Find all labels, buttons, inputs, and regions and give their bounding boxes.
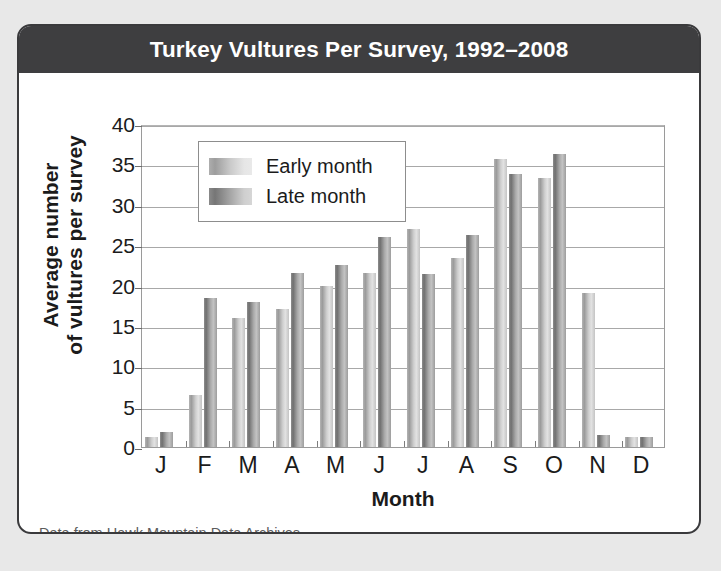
bar-late-month	[204, 298, 217, 447]
y-axis-tick-mark	[135, 409, 142, 410]
bar-early-month	[538, 178, 551, 447]
legend-item-late-month: Late month	[209, 181, 395, 211]
chart-body: Average number of vultures per survey 05…	[19, 73, 699, 534]
bar-late-month	[422, 274, 435, 447]
bar-early-month	[363, 273, 376, 447]
bar-early-month	[451, 258, 464, 447]
legend-swatch-icon-late-month	[209, 188, 252, 205]
y-axis-tick-mark	[135, 449, 142, 450]
x-axis-tick-label: F	[197, 452, 211, 479]
bar-group	[142, 126, 186, 447]
figure-card: Turkey Vultures Per Survey, 1992–2008 Av…	[17, 24, 701, 534]
y-axis-tick-mark	[135, 126, 142, 127]
bar-late-month	[291, 273, 304, 447]
y-axis-tick-label: 40	[112, 113, 135, 137]
bar-late-month	[553, 154, 566, 447]
x-axis-tick-label: S	[502, 452, 517, 479]
bar-group	[535, 126, 579, 447]
bar-group	[622, 126, 666, 447]
y-axis-tick-label: 5	[123, 396, 135, 420]
bar-group	[448, 126, 492, 447]
chart-title-banner: Turkey Vultures Per Survey, 1992–2008	[19, 26, 699, 73]
y-axis-tick-label: 0	[123, 436, 135, 460]
y-axis-tick-mark	[135, 166, 142, 167]
legend-item-early-month: Early month	[209, 151, 395, 181]
bar-late-month	[160, 432, 173, 447]
y-axis-tick-mark	[135, 328, 142, 329]
y-axis-tick-label: 25	[112, 234, 135, 258]
bar-late-month	[335, 265, 348, 447]
y-axis-tick-mark	[135, 288, 142, 289]
x-axis-tick-label: A	[459, 452, 474, 479]
bar-late-month	[466, 235, 479, 447]
bar-early-month	[320, 286, 333, 448]
legend-label-late-month: Late month	[266, 185, 366, 208]
y-axis-tick-label: 15	[112, 315, 135, 339]
x-axis-tick-label: M	[239, 452, 258, 479]
x-axis-tick-label: M	[326, 452, 345, 479]
y-axis-title-line-1: Average number	[39, 105, 63, 385]
bar-early-month	[189, 395, 202, 447]
x-axis-tick-label: J	[373, 452, 385, 479]
x-axis-tick-label: N	[589, 452, 606, 479]
legend-swatch-icon-early-month	[209, 158, 252, 175]
bar-early-month	[625, 437, 638, 447]
bar-early-month	[145, 437, 158, 447]
x-axis-tick-label: A	[284, 452, 299, 479]
x-axis-tick-labels: JFMAMJJASOND	[141, 452, 665, 484]
x-axis-tick-label: O	[545, 452, 563, 479]
y-axis-title-line-2: of vultures per survey	[63, 105, 87, 385]
y-axis-tick-label: 20	[112, 275, 135, 299]
bar-group	[579, 126, 623, 447]
x-axis-tick-label: J	[417, 452, 429, 479]
y-axis-tick-mark	[135, 247, 142, 248]
bar-late-month	[640, 437, 653, 447]
bar-late-month	[509, 174, 522, 447]
bar-late-month	[378, 237, 391, 447]
x-axis-tick-label: D	[633, 452, 650, 479]
x-axis-tick-label: J	[155, 452, 167, 479]
plot-area: Early month Late month	[141, 125, 665, 448]
source-note: Data from Hawk Mountain Data Archives	[39, 525, 300, 534]
chart-title: Turkey Vultures Per Survey, 1992–2008	[150, 37, 569, 63]
bar-early-month	[232, 318, 245, 447]
x-axis-title: Month	[141, 487, 665, 511]
y-axis-tick-mark	[135, 207, 142, 208]
y-axis-tick-label: 30	[112, 194, 135, 218]
bar-late-month	[247, 302, 260, 447]
bar-early-month	[582, 293, 595, 447]
bar-group	[491, 126, 535, 447]
bar-late-month	[597, 435, 610, 447]
y-axis-tick-label: 10	[112, 355, 135, 379]
bar-early-month	[276, 309, 289, 447]
bar-early-month	[407, 229, 420, 447]
legend-label-early-month: Early month	[266, 155, 373, 178]
y-axis-tick-label: 35	[112, 153, 135, 177]
y-axis-tick-labels: 0510152025303540	[91, 125, 135, 448]
y-axis-tick-mark	[135, 368, 142, 369]
bar-group	[404, 126, 448, 447]
y-axis-title: Average number of vultures per survey	[39, 105, 87, 385]
bar-early-month	[494, 159, 507, 447]
chart-legend: Early month Late month	[198, 141, 406, 222]
